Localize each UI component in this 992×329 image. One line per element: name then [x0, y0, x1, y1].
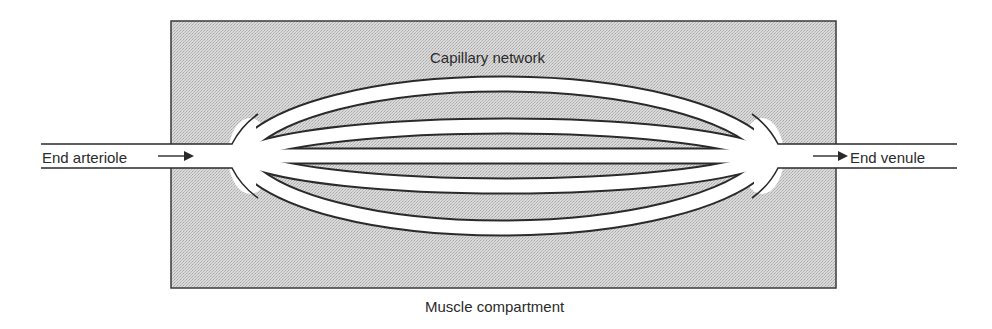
end-arteriole-label: End arteriole — [42, 150, 127, 165]
muscle-compartment-label: Muscle compartment — [425, 299, 564, 314]
end-venule-label: End venule — [850, 150, 925, 165]
capillary-network-label: Capillary network — [430, 50, 545, 65]
